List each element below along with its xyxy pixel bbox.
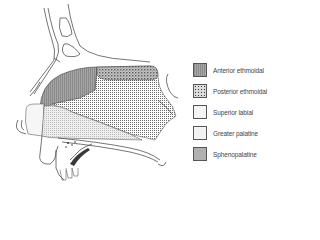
teeth-outline: [60, 168, 78, 180]
legend-label: Anterior ethmoidal: [213, 67, 264, 74]
swatch-posterior-ethmoidal: [193, 84, 207, 98]
legend-item-sphenopalatine: Sphenopalatine: [193, 144, 284, 164]
legend-label: Greater palatine: [213, 130, 258, 137]
legend-item-superior-labial: Superior labial: [193, 102, 284, 122]
legend: Anterior ethmoidal Posterior ethmoidal S…: [193, 60, 284, 165]
legend-label: Posterior ethmoidal: [213, 88, 267, 95]
swatch-sphenopalatine: [193, 147, 207, 161]
legend-label: Sphenopalatine: [213, 151, 257, 158]
region-superior-labial: [25, 104, 44, 136]
legend-item-greater-palatine: Greater palatine: [193, 123, 284, 143]
region-posterior-ethmoidal: [97, 66, 158, 80]
legend-label: Superior labial: [213, 109, 253, 116]
swatch-anterior-ethmoidal: [193, 63, 207, 77]
swatch-superior-labial: [193, 105, 207, 119]
legend-item-anterior-ethmoidal: Anterior ethmoidal: [193, 60, 284, 80]
swatch-greater-palatine: [193, 126, 207, 140]
legend-item-posterior-ethmoidal: Posterior ethmoidal: [193, 81, 284, 101]
